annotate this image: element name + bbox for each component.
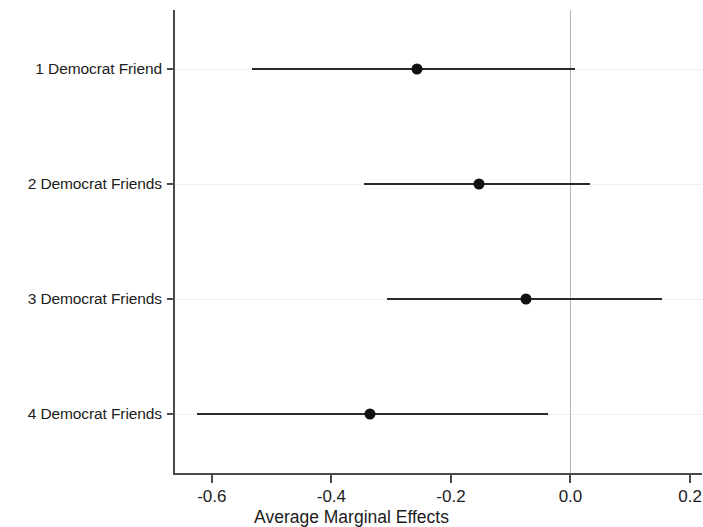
- estimate-point-4: [365, 409, 376, 420]
- x-axis-line: [173, 473, 702, 475]
- y-tick-label-3: 3 Democrat Friends: [28, 291, 162, 307]
- y-tick-label-2: 2 Democrat Friends: [28, 176, 162, 192]
- y-tick-mark-3: [167, 298, 175, 300]
- x-tick-label-2: -0.4: [317, 487, 346, 506]
- x-tick-label-3: -0.2: [436, 487, 465, 506]
- x-tick-label-1: -0.6: [197, 487, 226, 506]
- x-tick-label-5: 0.2: [678, 487, 702, 506]
- x-tick-mark-5: [689, 474, 691, 483]
- y-tick-mark-1: [167, 68, 175, 70]
- x-tick-mark-1: [211, 474, 213, 483]
- x-tick-label-4: 0.0: [559, 487, 583, 506]
- y-tick-label-1: 1 Democrat Friend: [35, 61, 162, 77]
- x-tick-mark-3: [450, 474, 452, 483]
- x-tick-mark-2: [330, 474, 332, 483]
- y-tick-mark-2: [167, 183, 175, 185]
- estimate-point-1: [411, 64, 422, 75]
- y-axis-line: [173, 10, 175, 474]
- estimate-point-3: [520, 294, 531, 305]
- estimate-point-2: [474, 179, 485, 190]
- coefficient-plot-figure: 1 Democrat Friend 2 Democrat Friends 3 D…: [0, 0, 703, 527]
- y-tick-label-4: 4 Democrat Friends: [28, 406, 162, 422]
- zero-reference-line: [570, 10, 571, 474]
- y-tick-mark-4: [167, 413, 175, 415]
- x-axis-title: Average Marginal Effects: [0, 508, 703, 527]
- x-tick-mark-4: [569, 474, 571, 483]
